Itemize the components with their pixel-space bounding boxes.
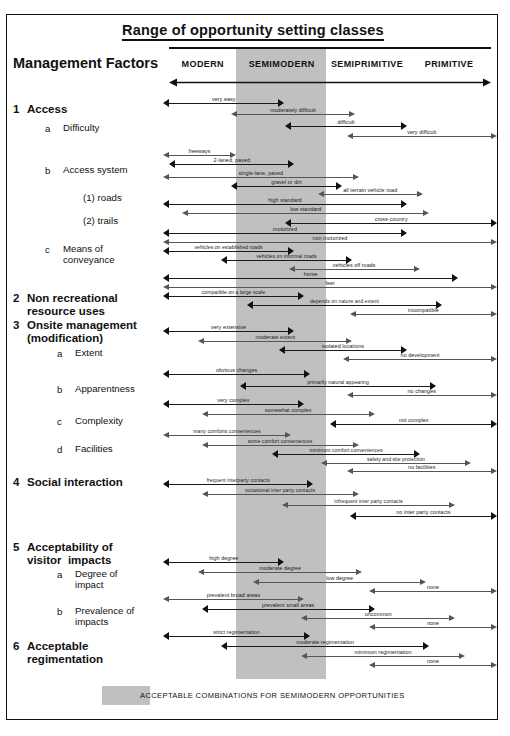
arrow-label: many comforts conveniences (163, 428, 291, 435)
arrow-label: high degree (163, 555, 284, 562)
arrow-label: prevalent small areas (202, 602, 375, 609)
factor-label-onsite-management: Onsite management (modification) (27, 319, 137, 344)
arrow-label: vehicles on informal roads (221, 253, 352, 260)
arrow-label: no facilities (347, 464, 497, 471)
arrow-line (186, 213, 425, 214)
arrow-label: moderately difficult (231, 107, 356, 114)
diagram-frame: Range of opportunity setting classes Man… (6, 14, 498, 720)
opportunity-class-axis (169, 77, 491, 88)
arrow-label: moderate regimentation (221, 639, 429, 646)
factor-number-social-interaction: 4 (13, 476, 19, 488)
arrow-apparentness-no-changes: no changes (347, 391, 497, 400)
arrow-label: depends on nature and extent (247, 298, 443, 305)
arrow-label: minimum comfort conveniences (272, 447, 419, 454)
class-header-primitive: PRIMITIVE (401, 59, 497, 69)
factor-number-acceptability-impacts: 5 (13, 541, 19, 553)
arrow-label: moderate extent (198, 334, 352, 341)
arrow-label: feet (163, 280, 497, 287)
arrow-label: horse (163, 271, 458, 278)
arrow-label: not complex (330, 417, 497, 424)
arrow-label: infrequent inter party contacts (282, 498, 455, 505)
arrow-line (167, 599, 300, 600)
factor-label-facilities: Facilities (75, 443, 113, 454)
factor-label-acceptable-regimentation: Acceptable regimentation (27, 640, 103, 665)
arrow-label: vehicles on established roads (163, 244, 294, 251)
arrow-label: obvious changes (163, 367, 310, 374)
factor-letter-degree-of-impact: a (57, 569, 62, 580)
arrow-label: safety and site protection (321, 456, 471, 463)
arrow-label: very difficult (347, 129, 497, 136)
arrow-label: no changes (347, 388, 497, 395)
arrow-prevalence-none: none (369, 623, 497, 632)
class-header-semimodern: SEMIMODERN (231, 59, 333, 69)
arrow-label: no inter party contacts (350, 509, 497, 516)
factor-letter-prevalence-of-impacts: b (57, 606, 62, 617)
arrow-label: uncommon (301, 611, 455, 618)
arrow-line (373, 591, 493, 592)
arrow-line (322, 194, 419, 195)
arrow-label: very complex (163, 397, 304, 404)
factor-label-non-recreational: Non recreational resource uses (27, 292, 118, 317)
arrow-label: minimum regimentation (301, 649, 464, 656)
factor-number-acceptable-regimentation: 6 (13, 640, 19, 652)
arrow-label: primarily natural appearing (240, 379, 436, 386)
arrow-social-no-interparty: no inter party contacts (350, 512, 497, 521)
arrow-line (351, 471, 493, 472)
factor-label-acceptability-impacts: Acceptability of visitor impacts (27, 541, 113, 566)
arrow-label: compatible on a large scale (163, 289, 304, 296)
arrow-regimentation-none: none (369, 661, 497, 670)
class-header-semiprimitive: SEMIPRIMITIVE (321, 59, 414, 69)
factor-letter-access-system: b (45, 165, 50, 176)
arrow-label: none (369, 658, 497, 665)
arrow-label: low standard (182, 206, 429, 213)
factor-label-apparentness: Apparentness (75, 383, 135, 394)
header-rule (169, 47, 491, 49)
arrow-label: gravel or dirt (231, 179, 343, 186)
factor-label-access-system: Access system (63, 164, 128, 175)
arrow-difficulty-very-difficult: very difficult (347, 132, 497, 141)
arrow-extent-no-development: no development (343, 355, 497, 364)
arrow-line (206, 414, 371, 415)
factor-label-social-interaction: Social interaction (27, 476, 123, 489)
arrow-line (354, 314, 493, 315)
arrow-label: vehicles off roads (289, 262, 420, 269)
page-title-text: Range of opportunity setting classes (122, 22, 384, 41)
factor-label-trails: (2) trails (83, 215, 118, 226)
arrow-line (286, 505, 451, 506)
arrow-line (351, 136, 493, 137)
arrow-label: prevalent broad areas (163, 592, 304, 599)
factor-letter-extent: a (57, 348, 62, 359)
factor-letter-difficulty: a (45, 123, 50, 134)
arrow-label: isolated locations (279, 343, 407, 350)
arrow-line (167, 435, 287, 436)
arrow-label: motorized (163, 226, 407, 233)
page-title: Range of opportunity setting classes (7, 22, 499, 38)
factor-letter-facilities: d (57, 444, 62, 455)
arrow-label: none (369, 584, 497, 591)
factor-label-difficulty: Difficulty (63, 122, 99, 133)
arrow-nonrec-incompatible: incompatible (350, 310, 497, 319)
legend-text: ACCEPTABLE COMBINATIONS FOR SEMIMODERN O… (140, 691, 405, 700)
arrow-degree-none: none (369, 587, 497, 596)
management-factors-heading: Management Factors (13, 55, 158, 71)
factor-number-non-recreational: 2 (13, 292, 19, 304)
arrow-label: frequent interparty contacts (163, 477, 313, 484)
arrow-label: single-lane, paved (163, 170, 359, 177)
factor-label-complexity: Complexity (75, 415, 123, 426)
arrow-line (202, 572, 357, 573)
arrow-label: very extensive (163, 324, 294, 331)
arrow-line (373, 665, 493, 666)
arrow-line (206, 494, 355, 495)
arrow-label: none (369, 620, 497, 627)
arrow-label: non motorized (163, 235, 497, 242)
arrow-label: very easy (163, 96, 284, 103)
arrow-label: strict regimentation (163, 629, 310, 636)
arrow-label: some comfort conveniences (202, 438, 359, 445)
arrow-label: incompatible (350, 307, 497, 314)
arrow-access-system-2-laned-paved: 2-laned, paved (169, 160, 294, 169)
arrow-label: all terrain vehicle road (318, 187, 423, 194)
factor-label-prevalence-of-impacts: Prevalence of impacts (75, 605, 134, 627)
factor-letter-means-of-conveyance: c (45, 244, 50, 255)
factor-label-roads: (1) roads (83, 192, 122, 203)
factor-letter-complexity: c (57, 416, 62, 427)
